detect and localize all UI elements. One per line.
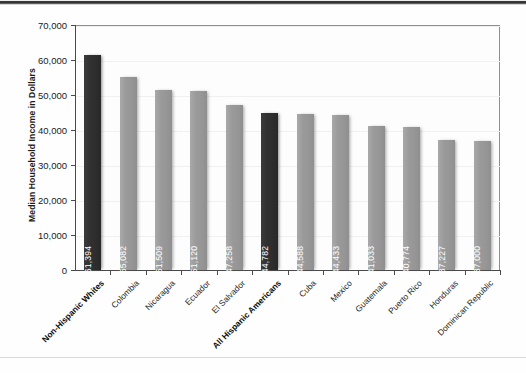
y-tick-label: 60,000: [5, 55, 67, 66]
bar-slot: $37,227: [438, 25, 455, 270]
bar-slot: $37,000: [474, 25, 491, 270]
x-tick-mark: [394, 271, 395, 275]
bar[interactable]: $37,000: [474, 141, 491, 271]
bar[interactable]: $47,258: [226, 105, 243, 270]
x-tick-mark: [217, 271, 218, 275]
x-tick-label: El Salvador: [210, 278, 247, 315]
y-tick-label: 70,000: [5, 20, 67, 31]
bar-slot: $51,120: [190, 25, 207, 270]
bar[interactable]: $44,433: [332, 115, 349, 271]
bar-value-label: $44,433: [331, 246, 341, 278]
bar-slot: $40,774: [403, 25, 420, 270]
x-tick-mark: [252, 271, 253, 275]
y-tick-label: 0: [5, 265, 67, 276]
x-tick-mark: [288, 271, 289, 275]
bar-slot: $51,509: [155, 25, 172, 270]
bar-value-label: $55,082: [118, 246, 128, 278]
y-tick-label: 10,000: [5, 230, 67, 241]
bar-slot: $44,782: [261, 25, 278, 270]
bar[interactable]: $51,509: [155, 90, 172, 270]
chart-figure: Median Household Income in Dollars 010,0…: [0, 0, 526, 373]
x-tick-label: Cuba: [297, 278, 318, 299]
bar[interactable]: $61,394: [84, 55, 101, 270]
bar-slot: $55,082: [120, 25, 137, 270]
top-edge-band: [0, 0, 526, 5]
bar-value-label: $37,227: [437, 246, 447, 278]
bar[interactable]: $44,588: [297, 114, 314, 270]
bar-slot: $44,433: [332, 25, 349, 270]
x-tick-mark: [429, 271, 430, 275]
x-tick-label: Non-Hispanic Whites: [39, 278, 105, 344]
bar-value-label: $47,258: [224, 246, 234, 278]
x-tick-mark: [500, 271, 501, 275]
x-tick-label: Honduras: [427, 278, 460, 311]
bar-value-label: $44,782: [260, 246, 270, 278]
bar[interactable]: $51,120: [190, 91, 207, 270]
bar-value-label: $44,588: [295, 246, 305, 278]
bar[interactable]: $37,227: [438, 140, 455, 270]
x-tick-mark: [181, 271, 182, 275]
bar-series: $61,394$55,082$51,509$51,120$47,258$44,7…: [75, 25, 500, 270]
x-tick-label: Mexico: [328, 278, 354, 304]
y-axis-title: Median Household Income in Dollars: [27, 40, 37, 250]
bar-value-label: $41,033: [366, 246, 376, 278]
x-tick-mark: [110, 271, 111, 275]
bar-slot: $61,394: [84, 25, 101, 270]
bar[interactable]: $44,782: [261, 113, 278, 270]
bar[interactable]: $40,774: [403, 127, 420, 270]
x-tick-label: Guatemala: [353, 278, 389, 314]
x-tick-label: Ecuador: [183, 278, 212, 307]
x-tick-mark: [358, 271, 359, 275]
x-tick-mark: [323, 271, 324, 275]
x-tick-label: Nicaragua: [143, 278, 177, 312]
bar-slot: $44,588: [297, 25, 314, 270]
bar[interactable]: $41,033: [368, 126, 385, 270]
bar-value-label: $37,000: [472, 246, 482, 278]
x-tick-mark: [465, 271, 466, 275]
bottom-separator-rule: [0, 357, 526, 358]
bar-value-label: $40,774: [401, 246, 411, 278]
y-tick-label: 30,000: [5, 160, 67, 171]
y-tick-label: 40,000: [5, 125, 67, 136]
bar-value-label: $61,394: [83, 246, 93, 278]
bar-value-label: $51,120: [189, 246, 199, 278]
x-tick-mark: [146, 271, 147, 275]
x-tick-label: All Hispanic Americans: [210, 278, 283, 351]
bar-value-label: $51,509: [154, 246, 164, 278]
bar[interactable]: $55,082: [120, 77, 137, 270]
x-tick-label: Colombia: [109, 278, 141, 310]
bar-slot: $41,033: [368, 25, 385, 270]
x-tick-label: Puerto Rico: [387, 278, 425, 316]
y-tick-label: 20,000: [5, 195, 67, 206]
y-tick-mark: [71, 270, 75, 271]
bar-slot: $47,258: [226, 25, 243, 270]
y-tick-label: 50,000: [5, 90, 67, 101]
